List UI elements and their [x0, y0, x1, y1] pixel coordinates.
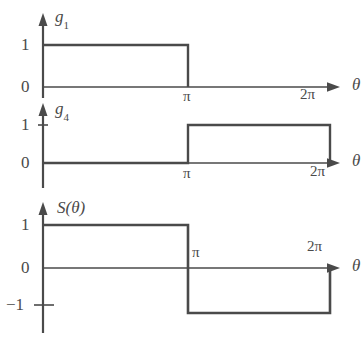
- x-axis-label-S: θ: [352, 257, 360, 274]
- function-label-g1: g1: [55, 8, 69, 28]
- x-axis-arrowhead-g1: [327, 82, 340, 92]
- y-axis-arrowhead-g4: [39, 103, 48, 116]
- panel-square-wave: 1 0 −1 S(θ) π 2π θ: [0, 195, 364, 340]
- y-tick-label-zero-S: 0: [21, 259, 30, 276]
- waveform-S: [43, 225, 330, 313]
- x-tick-label-2pi-g4: 2π: [310, 164, 325, 179]
- y-axis-arrowhead-g1: [39, 13, 48, 26]
- waveform-g1: [43, 45, 188, 87]
- square-wave-figure: 1 0 g1 π 2π θ 1 0 g4 π 2π θ: [0, 0, 364, 340]
- y-tick-label-zero-g4: 0: [21, 154, 30, 171]
- function-label-g1-base: g: [55, 7, 64, 26]
- function-label-g4-subscript: 4: [64, 111, 70, 123]
- y-tick-label-minus-one-S: −1: [6, 296, 24, 313]
- y-tick-label-zero-g1: 0: [21, 78, 30, 95]
- panel-g4: 1 0 g4 π 2π θ: [0, 100, 364, 195]
- x-axis-label-g4: θ: [352, 152, 360, 169]
- panel-g1: 1 0 g1 π 2π θ: [0, 0, 364, 100]
- waveform-g4: [43, 125, 330, 163]
- x-tick-label-pi-g4: π: [183, 166, 191, 181]
- x-tick-label-2pi-S: 2π: [307, 239, 322, 254]
- x-axis-label-g1: θ: [352, 76, 360, 93]
- y-tick-label-one-S: 1: [21, 216, 30, 233]
- y-axis-arrowhead-S: [39, 202, 48, 215]
- y-tick-label-one-g1: 1: [21, 36, 30, 53]
- function-label-g1-subscript: 1: [64, 19, 70, 31]
- y-tick-label-one-g4: 1: [21, 116, 30, 133]
- panel-square-wave-plot: [0, 195, 364, 340]
- function-label-S: S(θ): [57, 199, 85, 216]
- x-tick-label-pi-S: π: [192, 245, 200, 260]
- function-label-g4: g4: [55, 100, 69, 120]
- function-label-g4-base: g: [55, 99, 64, 118]
